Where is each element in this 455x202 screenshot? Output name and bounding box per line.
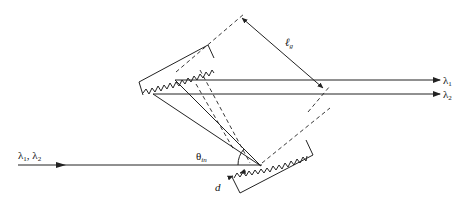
incidence-angle-label: θin (196, 150, 207, 164)
output-label-1: λ1 (443, 74, 452, 88)
grating-1 (139, 45, 214, 95)
grating-2 (232, 140, 313, 193)
construction-lines (176, 14, 330, 163)
separation-arrow (242, 18, 323, 88)
grating-pair-diagram: λ1, λ2 λ1 λ2 ℓg (0, 0, 455, 202)
separation-label: ℓg (285, 36, 294, 50)
groove-spacing-label: d (215, 181, 221, 193)
output-label-2: λ2 (443, 88, 452, 102)
input-beam-label: λ1, λ2 (18, 149, 42, 163)
input-beam (18, 162, 262, 168)
groove-spacing-marker (228, 171, 246, 178)
